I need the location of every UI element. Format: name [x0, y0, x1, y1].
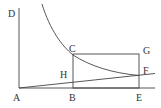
- geometry-diagram: D A B C H E F G: [0, 0, 161, 108]
- hyperbola-curve: [42, 4, 139, 76]
- label-b: B: [69, 92, 76, 103]
- label-d: D: [8, 8, 15, 19]
- label-a: A: [13, 92, 21, 103]
- label-h: H: [60, 69, 67, 80]
- rectangle-bcge: [73, 54, 139, 88]
- label-c: C: [69, 43, 76, 54]
- line-ahf: [19, 74, 155, 89]
- label-g: G: [143, 45, 150, 56]
- label-e: E: [136, 92, 142, 103]
- label-f: F: [143, 65, 149, 76]
